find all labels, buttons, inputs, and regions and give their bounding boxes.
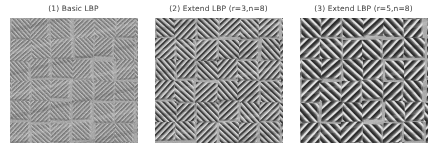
panel-2-title: (2) Extend LBP (r=3,n=8) bbox=[152, 4, 285, 13]
panel-2-image bbox=[155, 18, 283, 143]
figure-panel-3: (3) Extend LBP (r=5,n=8) bbox=[297, 0, 430, 159]
panel-1-title: (1) Basic LBP bbox=[7, 4, 140, 13]
figure-panel-2: (2) Extend LBP (r=3,n=8) bbox=[152, 0, 285, 159]
lbp-texture-3 bbox=[300, 18, 428, 143]
panel-3-image bbox=[300, 18, 428, 143]
lbp-texture-2 bbox=[155, 18, 283, 143]
panel-3-title: (3) Extend LBP (r=5,n=8) bbox=[297, 4, 430, 13]
panel-1-image bbox=[10, 18, 138, 143]
figure-canvas: (1) Basic LBP (2) Extend LBP (r=3,n=8) (… bbox=[0, 0, 436, 159]
lbp-texture-1 bbox=[10, 18, 138, 143]
figure-panel-1: (1) Basic LBP bbox=[7, 0, 140, 159]
